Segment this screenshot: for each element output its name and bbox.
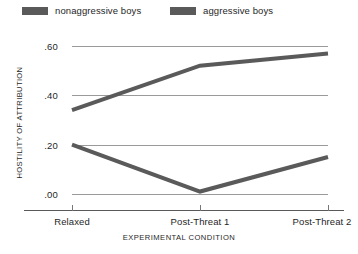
x-axis-title: EXPERIMENTAL CONDITION	[0, 233, 358, 242]
x-tick-label-post-threat-1: Post-Threat 1	[171, 216, 230, 227]
series-line-nonaggressive	[72, 145, 328, 192]
legend-label-nonaggressive: nonaggressive boys	[55, 6, 141, 16]
x-tick-label-post-threat-2: Post-Threat 2	[293, 216, 352, 227]
y-axis-tick-labels: .60 .40 .20 .00	[20, 46, 66, 194]
x-tick-mark-relaxed	[72, 205, 73, 211]
line-chart-figure: nonaggressive boys aggressive boys .60 .…	[0, 0, 358, 254]
x-tick-label-relaxed: Relaxed	[54, 216, 90, 227]
x-tick-mark-post-threat-1	[200, 205, 201, 211]
chart-legend: nonaggressive boys aggressive boys	[0, 6, 358, 28]
series-plot	[66, 36, 334, 204]
legend-entry-nonaggressive: nonaggressive boys	[22, 6, 141, 16]
plot-area	[72, 46, 328, 194]
y-tick-label-040: .40	[44, 91, 58, 100]
y-axis-title: HOSTILITY OF ATTRIBUTION	[15, 53, 24, 193]
x-tick-mark-post-threat-2	[328, 205, 329, 211]
series-line-aggressive	[72, 53, 328, 110]
legend-label-aggressive: aggressive boys	[203, 6, 273, 16]
y-tick-label-020: .20	[44, 140, 58, 149]
legend-swatch-aggressive-icon	[170, 7, 196, 15]
legend-entry-aggressive: aggressive boys	[170, 6, 273, 16]
y-tick-label-060: .60	[44, 42, 58, 51]
legend-swatch-nonaggressive-icon	[22, 7, 48, 15]
y-tick-label-000: .00	[44, 190, 58, 199]
